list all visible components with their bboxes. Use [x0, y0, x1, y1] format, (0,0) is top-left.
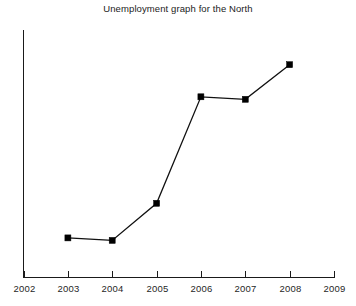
x-axis-label-2008: 2008: [280, 283, 302, 294]
x-axis-tick-marks: [25, 271, 335, 278]
x-axis-label-2002: 2002: [14, 283, 36, 294]
series-line-path: [68, 65, 290, 241]
data-point-2003: [65, 235, 71, 241]
data-point-2004: [109, 237, 115, 243]
x-axis: 20022003200420052006200720082009: [14, 271, 346, 294]
data-point-2007: [242, 96, 248, 102]
chart-plot-area: 20022003200420052006200720082009: [0, 0, 356, 306]
x-axis-tick-labels: 20022003200420052006200720082009: [14, 283, 346, 294]
x-axis-label-2009: 2009: [324, 283, 346, 294]
data-point-2006: [198, 94, 204, 100]
x-axis-label-2006: 2006: [191, 283, 213, 294]
unemployment-line-chart: Unemployment graph for the North 2002200…: [0, 0, 356, 306]
data-series-unemployment: [65, 62, 293, 244]
x-axis-label-2003: 2003: [58, 283, 80, 294]
data-point-2008: [287, 62, 293, 68]
x-axis-label-2004: 2004: [102, 283, 124, 294]
x-axis-label-2007: 2007: [235, 283, 257, 294]
data-point-2005: [154, 200, 160, 206]
x-axis-label-2005: 2005: [147, 283, 169, 294]
